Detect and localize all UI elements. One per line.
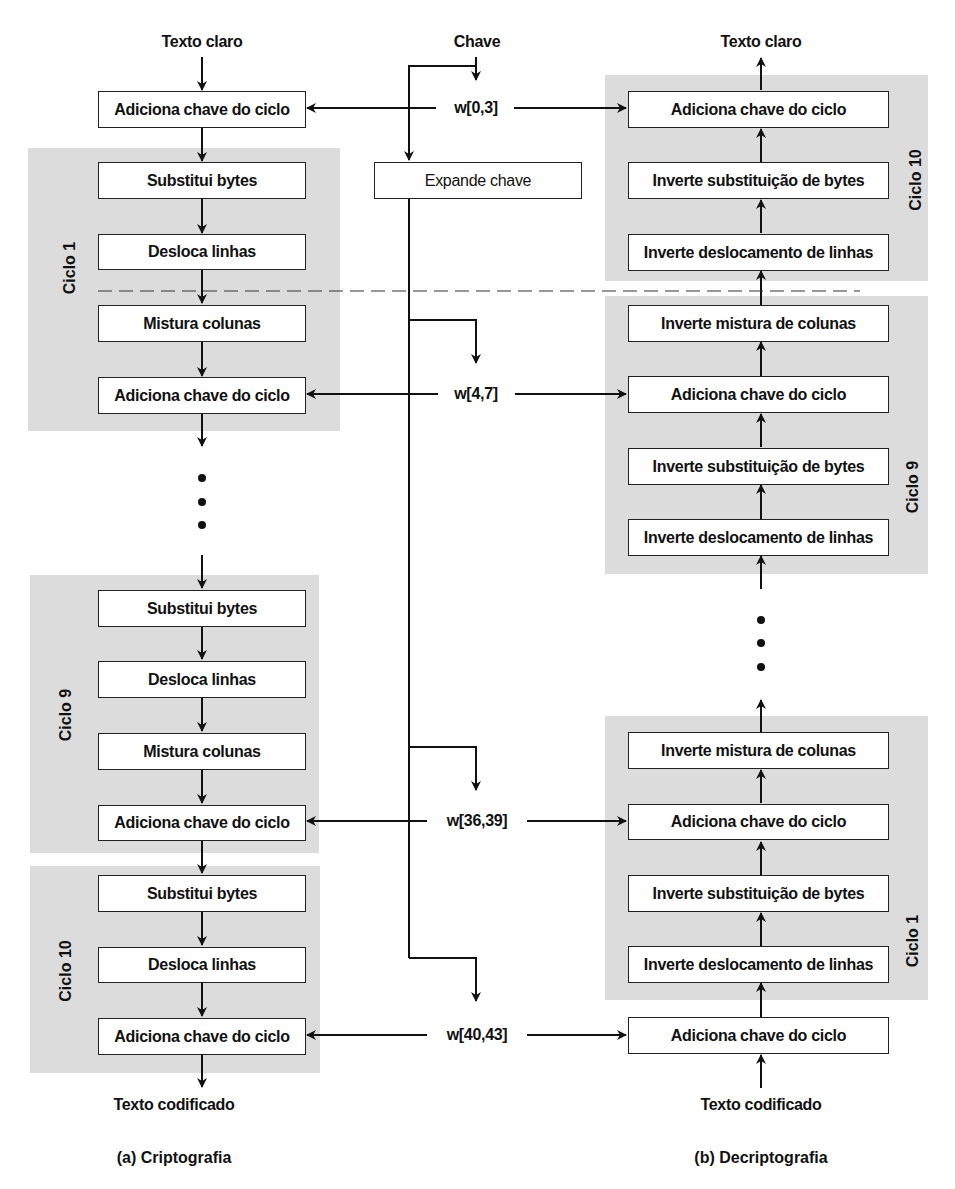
dec-round1-label: Ciclo 1 bbox=[904, 915, 922, 967]
enc-caption: (a) Criptografia bbox=[117, 1149, 232, 1167]
dec-r9-inv-sub-bytes: Inverte substituição de bytes bbox=[628, 448, 889, 485]
round-key-w0-3: w[0,3] bbox=[454, 99, 498, 117]
dec-r9-inv-shift-rows: Inverte deslocamento de linhas bbox=[628, 519, 889, 556]
dec-r1-add-round-key: Adiciona chave do ciclo bbox=[628, 804, 889, 840]
dec-input-label: Texto codificado bbox=[700, 1096, 821, 1114]
enc-round1-label: Ciclo 1 bbox=[61, 242, 79, 294]
dec-r1-inv-mix-columns: Inverte mistura de colunas bbox=[628, 732, 889, 769]
ellipsis-dot bbox=[757, 639, 765, 647]
enc-input-label: Texto claro bbox=[162, 33, 243, 51]
ellipsis-dot bbox=[757, 663, 765, 671]
dec-r1-inv-sub-bytes: Inverte substituição de bytes bbox=[628, 875, 889, 912]
enc-r1-mix-columns: Mistura colunas bbox=[98, 305, 306, 342]
enc-r1-sub-bytes: Substitui bytes bbox=[98, 162, 306, 199]
ellipsis-dot bbox=[198, 521, 206, 529]
ellipsis-dot bbox=[757, 616, 765, 624]
dec-round9-label: Ciclo 9 bbox=[904, 461, 922, 513]
key-expansion-box: Expande chave bbox=[374, 162, 582, 199]
dec-round10-label: Ciclo 10 bbox=[907, 149, 925, 210]
dec-caption: (b) Decriptografia bbox=[694, 1149, 827, 1167]
round-key-w4-7: w[4,7] bbox=[454, 385, 498, 403]
dec-r10-inv-sub-bytes: Inverte substituição de bytes bbox=[628, 162, 889, 199]
enc-round9-label: Ciclo 9 bbox=[57, 689, 75, 741]
enc-r9-sub-bytes: Substitui bytes bbox=[98, 590, 306, 627]
enc-r1-add-round-key: Adiciona chave do ciclo bbox=[98, 377, 306, 414]
enc-r1-shift-rows: Desloca linhas bbox=[98, 234, 306, 270]
enc-r10-add-round-key: Adiciona chave do ciclo bbox=[98, 1018, 306, 1055]
enc-r9-mix-columns: Mistura colunas bbox=[98, 733, 306, 770]
dec-r9-add-round-key: Adiciona chave do ciclo bbox=[628, 376, 889, 413]
dec-output-label: Texto claro bbox=[721, 33, 802, 51]
dec-final-add-round-key: Adiciona chave do ciclo bbox=[628, 1017, 889, 1054]
enc-initial-add-round-key: Adiciona chave do ciclo bbox=[98, 91, 306, 128]
enc-r9-shift-rows: Desloca linhas bbox=[98, 661, 306, 698]
round-key-w36-39: w[36,39] bbox=[447, 812, 508, 830]
ellipsis-dot bbox=[198, 498, 206, 506]
dec-r1-inv-shift-rows: Inverte deslocamento de linhas bbox=[628, 946, 889, 983]
dec-r9-inv-mix-columns: Inverte mistura de colunas bbox=[628, 305, 889, 342]
enc-r10-shift-rows: Desloca linhas bbox=[98, 947, 306, 983]
ellipsis-dot bbox=[198, 474, 206, 482]
enc-r10-sub-bytes: Substitui bytes bbox=[98, 875, 306, 912]
enc-r9-add-round-key: Adiciona chave do ciclo bbox=[98, 805, 306, 841]
enc-output-label: Texto codificado bbox=[113, 1096, 234, 1114]
round-key-w40-43: w[40,43] bbox=[447, 1026, 508, 1044]
dec-r10-add-round-key: Adiciona chave do ciclo bbox=[628, 91, 889, 128]
enc-round10-label: Ciclo 10 bbox=[57, 940, 75, 1001]
dec-r10-inv-shift-rows: Inverte deslocamento de linhas bbox=[628, 234, 889, 271]
key-label: Chave bbox=[454, 33, 501, 51]
